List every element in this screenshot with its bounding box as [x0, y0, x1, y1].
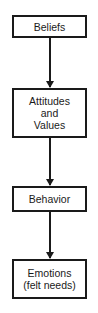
node-attitudes-label-line2: and	[41, 107, 59, 119]
arrow-attitudes-to-behavior	[49, 138, 51, 185]
arrow-beliefs-to-attitudes	[49, 37, 51, 87]
node-attitudes-values: Attitudes and Values	[12, 88, 87, 138]
node-emotions-label-line1: Emotions	[28, 267, 72, 279]
node-beliefs: Beliefs	[12, 15, 87, 38]
arrow-behavior-to-emotions	[49, 212, 51, 258]
node-attitudes-label-line1: Attitudes	[29, 95, 70, 107]
node-attitudes-label-line3: Values	[34, 119, 65, 131]
node-behavior: Behavior	[12, 186, 87, 212]
node-emotions: Emotions (felt needs)	[12, 259, 87, 299]
node-emotions-label-line2: (felt needs)	[23, 279, 76, 291]
node-behavior-label: Behavior	[29, 193, 70, 205]
node-beliefs-label: Beliefs	[34, 21, 66, 33]
